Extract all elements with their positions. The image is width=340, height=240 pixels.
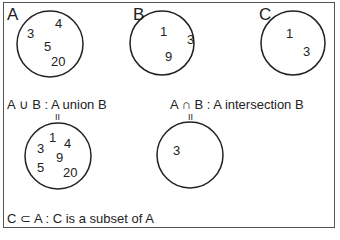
subset-caption: C ⊂ A : C is a subset of A <box>7 212 154 225</box>
union-element: 1 <box>49 131 56 144</box>
intersection-equals: II <box>188 113 193 122</box>
set-b-element: 9 <box>165 50 172 63</box>
union-element: 20 <box>63 166 77 179</box>
union-element: 4 <box>64 137 71 150</box>
set-a-label: A <box>7 6 18 23</box>
union-caption: A ∪ B : A union B <box>7 98 107 111</box>
set-b-element: 1 <box>160 25 167 38</box>
union-equals: II <box>55 113 60 122</box>
union-element: 9 <box>56 151 63 164</box>
set-c-element: 3 <box>303 45 310 58</box>
set-a-element: 20 <box>51 55 65 68</box>
intersection-circle <box>157 122 223 188</box>
set-a-element: 3 <box>27 27 34 40</box>
set-b-element: 3 <box>187 33 194 46</box>
set-c-element: 1 <box>286 27 293 40</box>
union-element: 3 <box>37 142 44 155</box>
intersection-element: 3 <box>173 144 180 157</box>
set-a-element: 5 <box>44 40 51 53</box>
union-element: 5 <box>37 161 44 174</box>
set-a-element: 4 <box>55 17 62 30</box>
set-b-label: B <box>133 6 144 23</box>
set-c-label: C <box>259 6 271 23</box>
intersection-caption: A ∩ B : A intersection B <box>170 98 304 111</box>
